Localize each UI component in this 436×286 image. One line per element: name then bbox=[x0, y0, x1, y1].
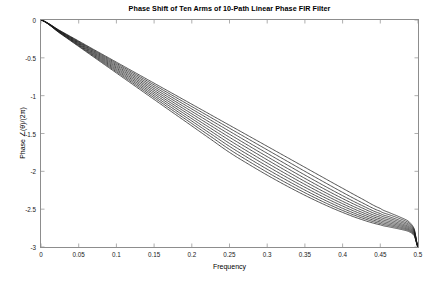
x-tick-label: 0.2 bbox=[187, 251, 196, 258]
chart-title: Phase Shift of Ten Arms of 10-Path Linea… bbox=[40, 4, 419, 14]
x-tick-label: 0.1 bbox=[112, 251, 121, 258]
figure-container: Phase Shift of Ten Arms of 10-Path Linea… bbox=[0, 0, 436, 286]
x-tick-label: 0.3 bbox=[263, 251, 272, 258]
y-tick-label: -2 bbox=[30, 168, 36, 175]
x-tick-label: 0.4 bbox=[338, 251, 347, 258]
y-tick-label: -3 bbox=[30, 244, 36, 251]
x-tick-label: 0.15 bbox=[148, 251, 160, 258]
y-tick-label: -1 bbox=[30, 92, 36, 99]
series-line bbox=[41, 20, 418, 247]
x-tick-label: 0.45 bbox=[374, 251, 386, 258]
series-lines bbox=[41, 20, 418, 247]
y-tick-label: 0 bbox=[32, 17, 36, 24]
x-tick-label: 0.35 bbox=[299, 251, 311, 258]
x-tick-label: 0 bbox=[39, 251, 43, 258]
y-tick-label: -0.5 bbox=[25, 54, 36, 61]
x-tick-label: 0.25 bbox=[223, 251, 235, 258]
y-axis-title: Phase ∠(θ)/(2π) bbox=[19, 63, 27, 203]
x-axis-title: Frequency bbox=[40, 263, 419, 270]
x-tick-label: 0.5 bbox=[414, 251, 423, 258]
y-tick-label: -2.5 bbox=[25, 206, 36, 213]
plot-area bbox=[40, 19, 419, 248]
x-tick-label: 0.05 bbox=[73, 251, 85, 258]
plot-svg bbox=[41, 20, 418, 247]
